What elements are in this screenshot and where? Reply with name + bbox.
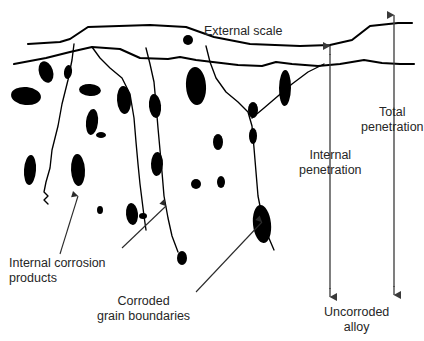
precipitate-particle [125,202,139,225]
precipitate-particle [148,93,162,118]
crack-mid [146,48,178,252]
precipitate-particle [177,251,187,265]
precipitate-particle [191,179,201,189]
precipitate-particle [96,132,106,138]
precipitate-particle [97,206,103,214]
corrosion-diagram: External scale Total penetration Interna… [0,0,424,341]
precipitate-particle [85,108,100,135]
leader-internal-corrosion [60,196,78,254]
precipitate-particle [139,213,147,219]
label-total-penetration: Total penetration [361,105,424,135]
precipitate-particle [36,59,56,84]
label-internal-corrosion-line2: products [9,271,106,286]
label-corroded-gb-line1: Corroded [97,294,190,309]
crack-mid-left [92,47,146,230]
label-uncorroded-alloy: Uncorroded alloy [324,305,389,335]
precipitate-particle [183,35,193,45]
precipitate-particle [185,66,208,105]
precipitate-particle [279,70,292,106]
precipitate-particle [10,85,42,106]
label-total-penetration-line2: penetration [361,120,424,135]
precipitate-particle [63,65,73,80]
precipitate-particle [79,83,102,97]
label-internal-penetration-line2: penetration [299,163,362,178]
precipitate-particle [251,204,273,244]
leader-corroded-gb-2 [196,222,262,292]
label-total-penetration-line1: Total [361,105,424,120]
label-internal-penetration: Internal penetration [299,148,362,178]
label-corroded-gb-line2: grain boundaries [97,309,190,324]
precipitate-particle [70,154,86,187]
precipitate-particle [23,155,37,186]
label-internal-corrosion-products: Internal corrosion products [9,256,106,286]
precipitate-particle [217,176,225,188]
label-corroded-grain-boundaries: Corroded grain boundaries [97,294,190,324]
label-external-scale: External scale [204,24,283,39]
label-internal-penetration-line1: Internal [299,148,362,163]
precipitate-particle [213,134,223,150]
label-internal-corrosion-line1: Internal corrosion [9,256,106,271]
label-uncorroded-alloy-line2: alloy [324,320,389,335]
label-uncorroded-alloy-line1: Uncorroded [324,305,389,320]
precipitate-particle [248,102,258,118]
precipitate-particle [249,128,257,144]
precipitate-particle [116,86,132,115]
inner-metal-surface-line [14,47,414,66]
